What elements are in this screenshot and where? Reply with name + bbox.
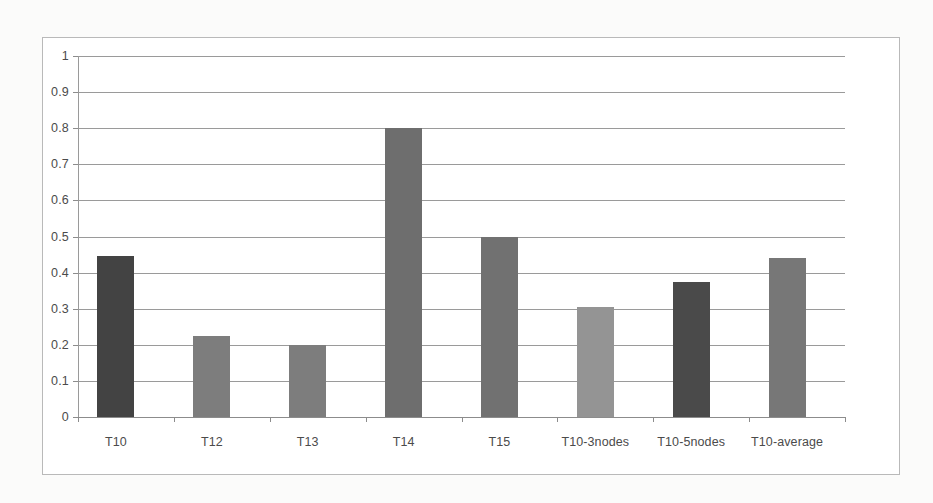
x-axis-tick-label: T12 [201, 435, 223, 449]
y-axis-tick-label: 0.2 [51, 338, 69, 352]
x-tick-mark [653, 417, 654, 422]
y-axis-tick-label: 0.4 [51, 266, 69, 280]
y-tick-mark [73, 92, 78, 93]
y-tick-mark [73, 164, 78, 165]
bar-t14[interactable] [385, 128, 422, 417]
y-axis-tick-label: 1 [62, 49, 69, 63]
gridline: 1 [78, 56, 845, 57]
y-tick-mark [73, 381, 78, 382]
y-axis-tick-label: 0.7 [51, 157, 69, 171]
x-tick-mark [174, 417, 175, 422]
x-axis-tick-label: T13 [297, 435, 319, 449]
bar-t15[interactable] [481, 237, 518, 418]
bar-t13[interactable] [289, 345, 326, 417]
y-axis-tick-label: 0.6 [51, 193, 69, 207]
x-tick-mark [78, 417, 79, 422]
x-axis-tick-label: T15 [489, 435, 511, 449]
x-axis-tick-label: T10-average [751, 435, 823, 449]
gridline: 0.4 [78, 273, 845, 274]
x-axis-tick-label: T10 [105, 435, 127, 449]
y-tick-mark [73, 56, 78, 57]
x-tick-mark [749, 417, 750, 422]
y-axis-tick-label: 0.8 [51, 121, 69, 135]
y-tick-mark [73, 200, 78, 201]
gridline: 0.7 [78, 164, 845, 165]
x-tick-mark [462, 417, 463, 422]
y-axis-tick-label: 0 [62, 410, 69, 424]
gridline: 0.3 [78, 309, 845, 310]
y-tick-mark [73, 273, 78, 274]
bar-t10-3nodes[interactable] [577, 307, 614, 417]
x-tick-mark [270, 417, 271, 422]
y-tick-mark [73, 345, 78, 346]
bar-t10-average[interactable] [769, 258, 806, 417]
x-tick-mark [845, 417, 846, 422]
y-tick-mark [73, 237, 78, 238]
x-axis-tick-label: T14 [393, 435, 415, 449]
gridline: 0.8 [78, 128, 845, 129]
x-axis-tick-label: T10-5nodes [657, 435, 725, 449]
y-tick-mark [73, 309, 78, 310]
bar-t10[interactable] [97, 256, 134, 417]
gridline: 0.5 [78, 237, 845, 238]
y-axis-tick-label: 0.9 [51, 85, 69, 99]
x-axis-tick-label: T10-3nodes [561, 435, 629, 449]
y-tick-mark [73, 128, 78, 129]
gridline: 0.9 [78, 92, 845, 93]
bar-t10-5nodes[interactable] [673, 282, 710, 417]
y-axis-tick-label: 0.3 [51, 302, 69, 316]
y-axis-tick-label: 0.1 [51, 374, 69, 388]
gridline: 0.6 [78, 200, 845, 201]
x-tick-mark [366, 417, 367, 422]
plot-area: 10.90.80.70.60.50.40.30.20.10 T10T12T13T… [78, 56, 845, 417]
y-axis-tick-label: 0.5 [51, 230, 69, 244]
bar-t12[interactable] [193, 336, 230, 417]
chart-page: 10.90.80.70.60.50.40.30.20.10 T10T12T13T… [0, 0, 933, 503]
x-tick-mark [557, 417, 558, 422]
